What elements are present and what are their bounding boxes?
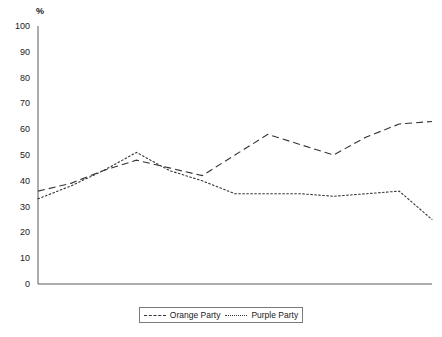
data-series-layer (38, 121, 432, 219)
legend-swatch-dotted-icon (225, 315, 247, 316)
legend-label-orange-party: Orange Party (170, 310, 221, 320)
series-line-orange-party (38, 121, 432, 191)
legend-label-purple-party: Purple Party (251, 310, 298, 320)
legend-item-orange-party: Orange Party (144, 310, 221, 320)
chart-legend: Orange Party Purple Party (139, 307, 303, 323)
line-chart: % 1009080706050403020100 Orange Party Pu… (0, 0, 442, 337)
legend-swatch-dashed-icon (144, 315, 166, 316)
plot-area (0, 0, 442, 337)
series-line-purple-party (38, 152, 432, 219)
legend-item-purple-party: Purple Party (225, 310, 298, 320)
